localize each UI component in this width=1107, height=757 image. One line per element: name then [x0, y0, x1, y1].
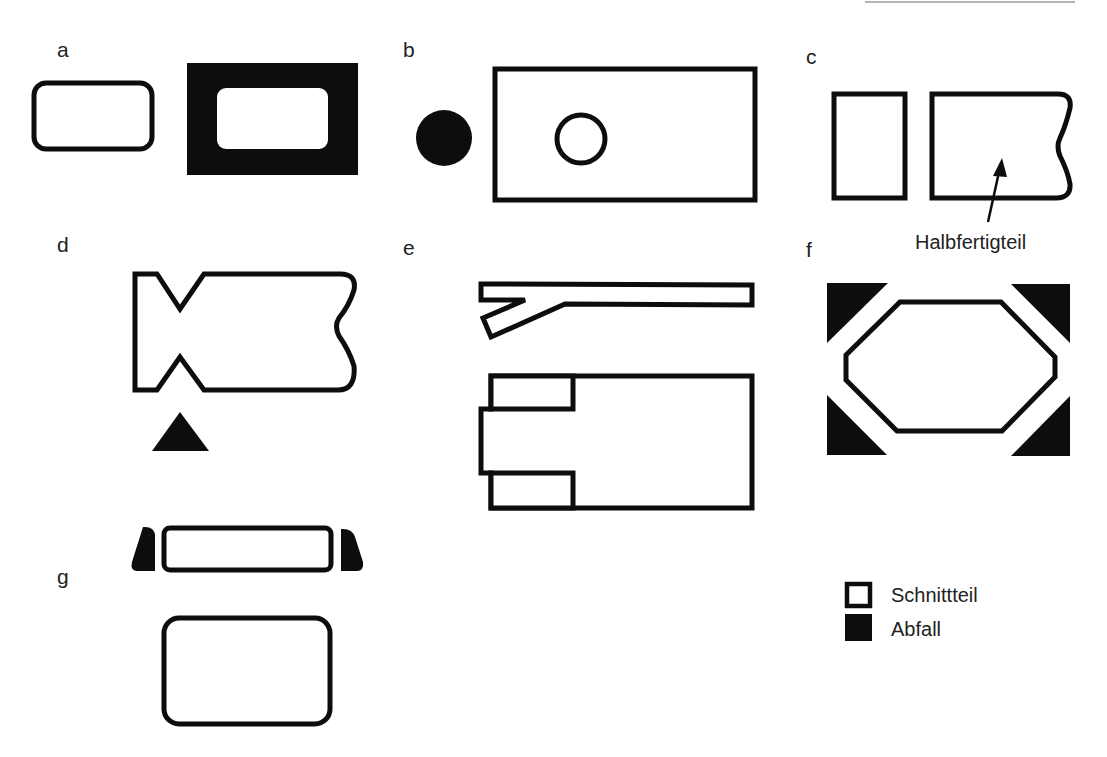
- scrap-triangle: [152, 412, 209, 451]
- bent-strip: [481, 284, 752, 337]
- annotation-halbfertigteil: Halbfertigteil: [915, 231, 1026, 253]
- panel-a: a: [34, 38, 358, 175]
- legend-label-schnittteil: Schnittteil: [891, 584, 978, 606]
- panel-d: d: [57, 233, 354, 451]
- cut-tab-bottom: [491, 473, 573, 508]
- panel-label-e: e: [403, 236, 415, 259]
- cut-part: [834, 94, 905, 198]
- cut-part-sheet: [495, 69, 755, 200]
- cut-part: [164, 618, 330, 724]
- cutting-diagram: a b c Halbfertigteil d e f: [0, 0, 1107, 757]
- punched-hole: [557, 115, 605, 163]
- panel-label-g: g: [57, 565, 69, 588]
- cut-strip: [164, 528, 331, 570]
- legend-label-abfall: Abfall: [891, 618, 941, 640]
- cut-tab-top: [491, 376, 573, 409]
- scrap-wedge-right: [341, 529, 363, 571]
- panel-label-f: f: [806, 238, 812, 261]
- notched-part: [135, 274, 354, 390]
- panel-label-c: c: [806, 45, 817, 68]
- panel-f: f: [806, 238, 1070, 456]
- panel-g: g: [57, 527, 363, 724]
- legend: Schnittteil Abfall: [845, 584, 978, 641]
- panel-b: b: [403, 38, 755, 200]
- panel-label-d: d: [57, 233, 69, 256]
- panel-label-a: a: [57, 38, 69, 61]
- semi-finished-part: [932, 94, 1070, 198]
- panel-c: c Halbfertigteil: [806, 45, 1070, 253]
- panel-label-b: b: [403, 38, 415, 61]
- scrap-frame-hole: [217, 88, 328, 149]
- legend-swatch-abfall: [845, 614, 872, 641]
- scrap-slug: [416, 110, 472, 166]
- octagon-part: [846, 302, 1055, 431]
- legend-swatch-schnittteil: [847, 584, 870, 606]
- cut-part: [34, 83, 152, 149]
- scrap-wedge-left: [132, 527, 156, 571]
- panel-e: e: [403, 236, 752, 508]
